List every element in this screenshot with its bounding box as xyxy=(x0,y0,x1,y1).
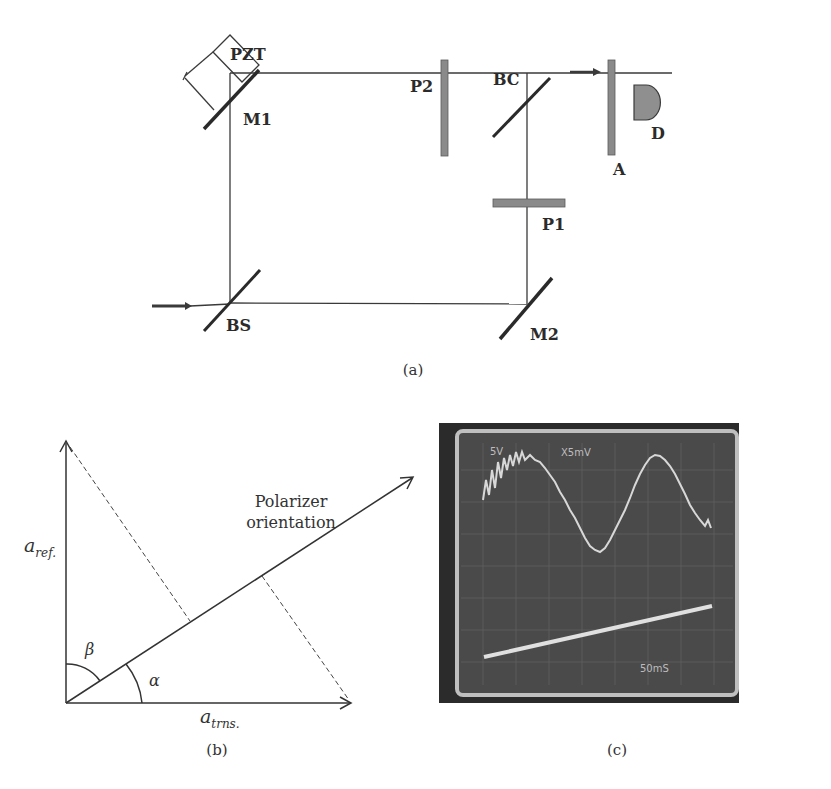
detector-d-icon xyxy=(634,85,660,120)
label-m1: M1 xyxy=(243,110,272,129)
label-d: D xyxy=(651,124,665,143)
angle-arc-beta xyxy=(66,664,100,681)
figure-canvas: M1 PZT P2 BC A D P1 BS M2 (a) xyxy=(0,0,831,789)
label-a: A xyxy=(612,160,626,179)
label-beta: β xyxy=(84,640,94,659)
analyzer-a xyxy=(608,60,615,155)
projection-ref xyxy=(70,447,190,621)
label-bc: BC xyxy=(493,70,520,89)
label-pzt: PZT xyxy=(230,45,266,64)
label-m2: M2 xyxy=(530,325,559,344)
label-a-trns: atrns. xyxy=(200,705,240,731)
polarizer-orientation-vector xyxy=(66,478,412,703)
scope-label-ch2: X5mV xyxy=(561,447,591,458)
label-p2: P2 xyxy=(410,77,433,96)
label-bs: BS xyxy=(226,316,251,335)
label-alpha: α xyxy=(149,671,160,690)
label-a-ref: aref. xyxy=(24,534,56,560)
label-polarizer-line1: Polarizer xyxy=(255,492,328,511)
angle-arc-alpha xyxy=(126,664,142,703)
polarizer-vector-diagram: β α aref. atrns. Polarizer orientation (… xyxy=(24,441,413,759)
caption-a: (a) xyxy=(403,361,424,379)
label-p1: P1 xyxy=(542,215,565,234)
polarizer-p1 xyxy=(493,199,565,207)
projection-trns xyxy=(262,576,349,700)
caption-b: (b) xyxy=(206,741,227,759)
label-polarizer-line2: orientation xyxy=(246,513,336,532)
beam-bottom xyxy=(230,303,527,304)
oscilloscope-photo: 5V X5mV 50mS (c) xyxy=(439,423,739,759)
scope-label-ch1: 5V xyxy=(490,446,503,457)
polarizer-p2 xyxy=(441,60,448,156)
scope-label-timebase: 50mS xyxy=(640,663,669,674)
caption-c: (c) xyxy=(607,741,627,759)
interferometer-diagram: M1 PZT P2 BC A D P1 BS M2 (a) xyxy=(152,35,672,379)
output-arrow-head-icon xyxy=(593,68,601,76)
